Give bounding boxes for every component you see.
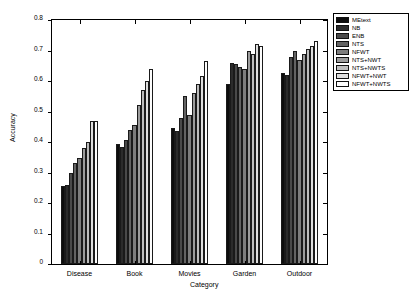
x-tick-label: Garden bbox=[233, 270, 256, 277]
plot-area bbox=[52, 20, 327, 264]
y-tick-mark-right bbox=[323, 142, 327, 143]
legend-label: NB bbox=[352, 25, 360, 31]
x-tick-label: Movies bbox=[178, 270, 200, 277]
y-tick-mark bbox=[48, 142, 52, 143]
y-tick-mark bbox=[48, 81, 52, 82]
plot-axes: 00.10.20.30.40.50.60.70.8DiseaseBookMovi… bbox=[51, 19, 328, 265]
legend-item[interactable]: MEtext bbox=[336, 16, 406, 24]
y-tick-mark-right bbox=[323, 81, 327, 82]
legend-item[interactable]: ENB bbox=[336, 32, 406, 40]
legend-swatch-icon bbox=[336, 41, 349, 47]
x-tick-mark bbox=[135, 261, 136, 265]
y-tick-label: 0.4 bbox=[34, 137, 43, 144]
x-tick-mark bbox=[190, 261, 191, 265]
y-tick-mark bbox=[48, 264, 52, 265]
y-tick-mark-right bbox=[323, 51, 327, 52]
legend-label: ENB bbox=[352, 33, 364, 39]
legend-swatch-icon bbox=[336, 17, 349, 23]
x-tick-mark bbox=[80, 261, 81, 265]
y-tick-mark bbox=[48, 234, 52, 235]
bar bbox=[149, 69, 153, 264]
y-tick-label: 0.1 bbox=[34, 229, 43, 236]
legend-label: NTS bbox=[352, 41, 364, 47]
legend-label: NTS+NWT bbox=[352, 57, 381, 63]
x-tick-mark-top bbox=[135, 20, 136, 24]
y-tick-mark-right bbox=[323, 264, 327, 265]
legend-label: NTS+NWTS bbox=[352, 65, 385, 71]
y-tick-mark-right bbox=[323, 173, 327, 174]
y-tick-label: 0.3 bbox=[34, 168, 43, 175]
y-tick-label: 0.7 bbox=[34, 46, 43, 53]
y-tick-label: 0.6 bbox=[34, 76, 43, 83]
y-tick-label: 0 bbox=[39, 259, 43, 266]
y-tick-label: 0.2 bbox=[34, 198, 43, 205]
legend-label: MEtext bbox=[352, 17, 371, 23]
legend-swatch-icon bbox=[336, 49, 349, 55]
legend-item[interactable]: NB bbox=[336, 24, 406, 32]
x-tick-label: Book bbox=[127, 270, 143, 277]
legend-swatch-icon bbox=[336, 33, 349, 39]
y-tick-mark bbox=[48, 112, 52, 113]
legend-item[interactable]: NTS bbox=[336, 40, 406, 48]
x-tick-label: Disease bbox=[67, 270, 92, 277]
legend-swatch-icon bbox=[336, 73, 349, 79]
legend-swatch-icon bbox=[336, 57, 349, 63]
legend-label: NFWT bbox=[352, 49, 369, 55]
y-axis-title: Accuracy bbox=[9, 113, 16, 142]
x-tick-mark-top bbox=[245, 20, 246, 24]
legend-label: NFWT+NWT bbox=[352, 73, 387, 79]
x-tick-mark bbox=[300, 261, 301, 265]
legend-swatch-icon bbox=[336, 65, 349, 71]
bar bbox=[259, 46, 263, 264]
legend-item[interactable]: NFWT bbox=[336, 48, 406, 56]
bar-chart-figure: 00.10.20.30.40.50.60.70.8DiseaseBookMovi… bbox=[0, 0, 414, 302]
y-tick-mark-right bbox=[323, 234, 327, 235]
y-tick-mark bbox=[48, 20, 52, 21]
y-tick-label: 0.5 bbox=[34, 107, 43, 114]
legend-swatch-icon bbox=[336, 25, 349, 31]
y-tick-mark-right bbox=[323, 203, 327, 204]
legend-item[interactable]: NFWT+NWT bbox=[336, 72, 406, 80]
y-tick-label: 0.8 bbox=[34, 15, 43, 22]
x-axis-title: Category bbox=[190, 281, 218, 288]
bar bbox=[204, 61, 208, 264]
bar bbox=[94, 121, 98, 264]
x-tick-mark-top bbox=[80, 20, 81, 24]
y-tick-mark bbox=[48, 51, 52, 52]
legend-item[interactable]: NTS+NWTS bbox=[336, 64, 406, 72]
legend-item[interactable]: NTS+NWT bbox=[336, 56, 406, 64]
legend-swatch-icon bbox=[336, 81, 349, 87]
y-tick-mark bbox=[48, 173, 52, 174]
bar bbox=[314, 41, 318, 264]
x-tick-label: Outdoor bbox=[287, 270, 312, 277]
y-tick-mark-right bbox=[323, 20, 327, 21]
legend-item[interactable]: NFWT+NWTS bbox=[336, 80, 406, 88]
x-tick-mark-top bbox=[190, 20, 191, 24]
y-tick-mark bbox=[48, 203, 52, 204]
legend-label: NFWT+NWTS bbox=[352, 81, 391, 87]
x-tick-mark-top bbox=[300, 20, 301, 24]
x-tick-mark bbox=[245, 261, 246, 265]
y-tick-mark-right bbox=[323, 112, 327, 113]
chart-legend: MEtextNBENBNTSNFWTNTS+NWTNTS+NWTSNFWT+NW… bbox=[333, 13, 409, 91]
